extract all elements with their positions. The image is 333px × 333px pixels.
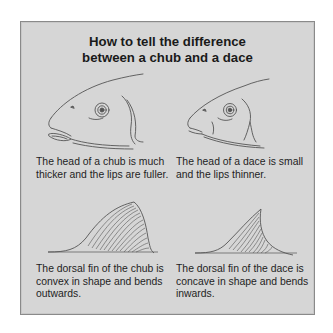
- dace-dorsal-fin-illustration: [193, 207, 303, 259]
- diagram-title: How to tell the difference between a chu…: [21, 34, 314, 66]
- chub-dorsal-fin-illustration: [46, 198, 166, 258]
- chub-head-illustration: [43, 70, 153, 155]
- chub-dace-comparison-panel: How to tell the difference between a chu…: [20, 21, 315, 315]
- title-line-1: How to tell the difference: [21, 34, 314, 50]
- chub-fin-caption: The dorsal fin of the chub is convex in …: [36, 263, 171, 301]
- dace-head-illustration: [184, 76, 284, 151]
- dace-fin-caption: The dorsal fin of the dace is concave in…: [176, 263, 311, 301]
- title-line-2: between a chub and a dace: [21, 50, 314, 66]
- dace-head-caption: The head of a dace is small and the lips…: [176, 156, 311, 181]
- chub-head-caption: The head of a chub is much thicker and t…: [36, 156, 171, 181]
